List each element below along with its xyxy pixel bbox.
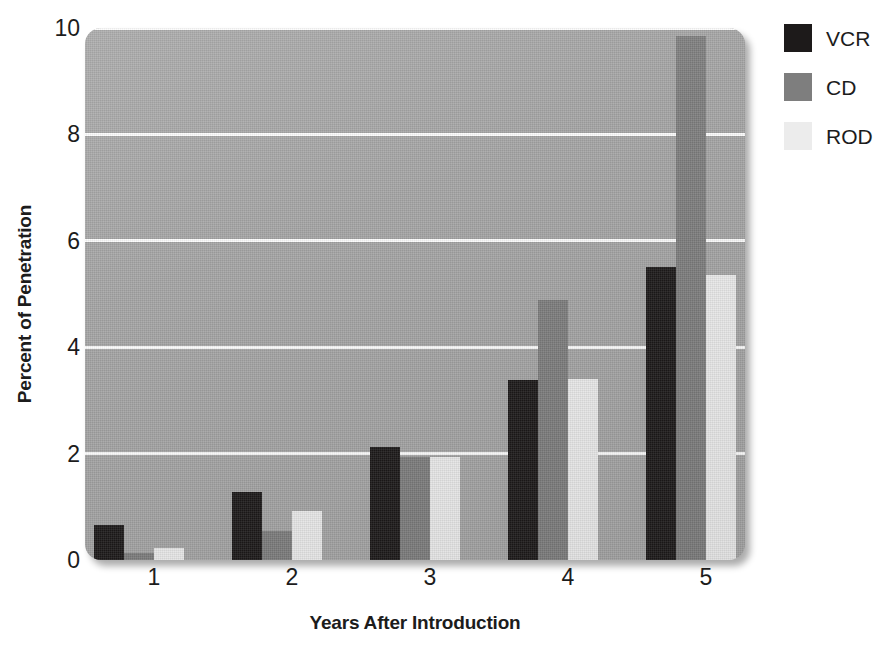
bar-vcr-year-3	[370, 447, 400, 560]
bar-cd-year-5	[676, 36, 706, 560]
x-tick-label-4: 4	[562, 566, 575, 589]
legend: VCRCDROD	[784, 24, 872, 171]
bar-cd-year-4	[538, 300, 568, 560]
bar-cd-year-2	[262, 531, 292, 560]
x-tick-label-1: 1	[148, 566, 161, 589]
y-tick-label-2: 2	[67, 442, 80, 465]
legend-label-vcr: VCR	[826, 28, 870, 49]
bar-rod-year-5	[706, 275, 736, 560]
bar-cd-year-3	[400, 457, 430, 560]
x-tick-label-5: 5	[700, 566, 713, 589]
y-tick-label-8: 8	[67, 123, 80, 146]
bar-vcr-year-4	[508, 380, 538, 560]
bar-rod-year-3	[430, 457, 460, 560]
bar-rod-year-2	[292, 511, 322, 560]
x-tick-label-3: 3	[424, 566, 437, 589]
x-axis-tick-labels: 12345	[0, 566, 872, 606]
y-axis-tick-labels: 0246810	[38, 0, 80, 648]
bar-vcr-year-5	[646, 267, 676, 560]
bar-rod-year-4	[568, 379, 598, 560]
legend-label-cd: CD	[826, 77, 856, 98]
plot-area	[85, 28, 745, 560]
y-tick-label-4: 4	[67, 336, 80, 359]
bar-cd-year-1	[124, 553, 154, 560]
y-tick-label-6: 6	[67, 229, 80, 252]
bars-layer	[85, 28, 745, 560]
legend-item-rod[interactable]: ROD	[784, 122, 872, 150]
x-axis-title: Years After Introduction	[85, 612, 745, 634]
y-tick-label-10: 10	[54, 17, 80, 40]
bar-vcr-year-1	[94, 525, 124, 560]
legend-swatch-rod-icon	[784, 122, 812, 150]
legend-swatch-vcr-icon	[784, 24, 812, 52]
bar-rod-year-1	[154, 548, 184, 560]
x-tick-label-2: 2	[286, 566, 299, 589]
legend-item-vcr[interactable]: VCR	[784, 24, 872, 52]
y-axis-title: Percent of Penetration	[14, 139, 36, 469]
legend-label-rod: ROD	[826, 126, 873, 147]
legend-item-cd[interactable]: CD	[784, 73, 872, 101]
legend-swatch-cd-icon	[784, 73, 812, 101]
bar-vcr-year-2	[232, 492, 262, 560]
